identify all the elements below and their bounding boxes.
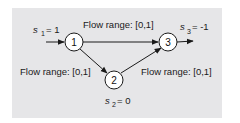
svg-text:3: 3: [187, 28, 191, 35]
svg-text:= 1: = 1: [46, 24, 59, 35]
svg-text:s: s: [105, 95, 110, 106]
svg-text:= 0: = 0: [117, 95, 130, 106]
edge-2-3-label: Flow range: [0,1]: [141, 66, 212, 77]
node-3-label: 3: [165, 37, 171, 48]
svg-text:1: 1: [41, 30, 45, 37]
node-1-label: 1: [71, 37, 77, 48]
svg-text:s: s: [180, 21, 185, 32]
svg-text:2: 2: [112, 101, 116, 108]
node-3: 3: [159, 33, 177, 51]
svg-text:= -1: = -1: [192, 21, 209, 32]
svg-text:s: s: [33, 24, 38, 35]
node-2: 2: [105, 71, 123, 89]
edge-1-3-label: Flow range: [0,1]: [83, 19, 154, 30]
node-2-label: 2: [111, 75, 117, 86]
edge-1-2-label: Flow range: [0,1]: [20, 66, 91, 77]
node-1: 1: [65, 33, 83, 51]
network-flow-diagram: 1 2 3 Flow range: [0,1] Flow range: [0,1…: [0, 0, 240, 123]
